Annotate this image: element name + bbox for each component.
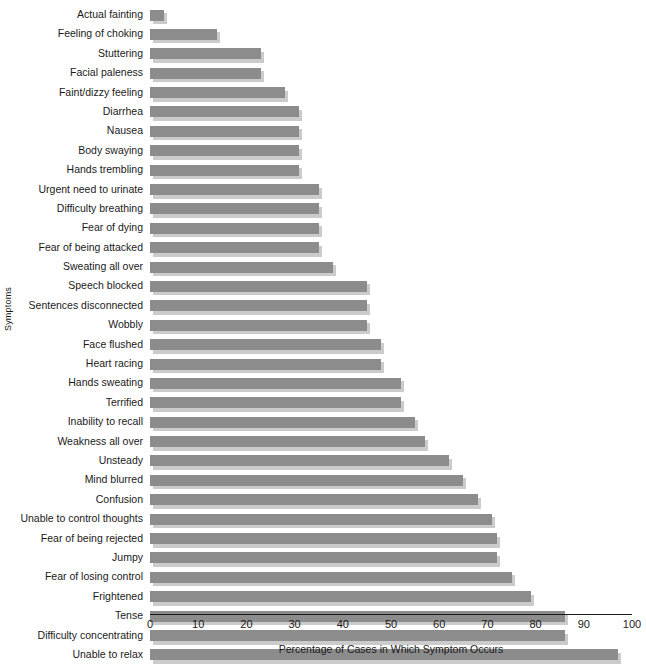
bar-row: Faint/dizzy feeling [16,86,632,105]
bar-category-label: Faint/dizzy feeling [16,86,150,99]
bar-track [150,512,632,531]
bar-track [150,435,632,454]
bar-category-label: Inability to recall [16,415,150,428]
bar-track [150,357,632,376]
bar-track [150,105,632,124]
bar-track [150,454,632,473]
bar-fill [150,339,381,350]
bar-row: Hands trembling [16,163,632,182]
bar-track [150,590,632,609]
bar-track [150,163,632,182]
bar-fill [150,242,319,253]
bar-fill [150,572,512,583]
bar-row: Hands sweating [16,376,632,395]
bar-row: Fear of being rejected [16,532,632,551]
bar-fill [150,281,367,292]
bar-fill [150,455,449,466]
bar-category-label: Weakness all over [16,435,150,448]
bar-track [150,415,632,434]
bar-category-label: Facial paleness [16,66,150,79]
bar-track [150,260,632,279]
bar-fill [150,533,497,544]
bar-row: Actual fainting [16,8,632,27]
bar-category-label: Body swaying [16,144,150,157]
bar-row: Jumpy [16,551,632,570]
bar-row: Fear of losing control [16,570,632,589]
bar-fill [150,514,492,525]
bar-track [150,241,632,260]
x-tick-label: 30 [288,618,300,630]
bar-fill [150,436,425,447]
x-tick-label: 60 [433,618,445,630]
x-tick-label: 90 [578,618,590,630]
bar-track [150,144,632,163]
bar-category-label: Sentences disconnected [16,299,150,312]
bar-fill [150,359,381,370]
bar-track [150,124,632,143]
y-axis-title: Symptoms [0,0,16,618]
bar-track [150,47,632,66]
bar-category-label: Feeling of choking [16,27,150,40]
bar-category-label: Jumpy [16,551,150,564]
bar-row: Weakness all over [16,435,632,454]
x-tick-label: 80 [529,618,541,630]
bar-fill [150,494,478,505]
bar-track [150,27,632,46]
bar-row: Face flushed [16,338,632,357]
bar-track [150,66,632,85]
bar-fill [150,126,299,137]
bar-fill [150,397,401,408]
bar-row: Heart racing [16,357,632,376]
bar-category-label: Actual fainting [16,8,150,21]
bar-category-label: Unable to control thoughts [16,512,150,525]
x-tick-label: 100 [623,618,641,630]
bar-row: Diarrhea [16,105,632,124]
bar-track [150,532,632,551]
bar-row: Wobbly [16,318,632,337]
bar-fill [150,475,463,486]
x-tick-label: 10 [192,618,204,630]
bar-row: Frightened [16,590,632,609]
bar-track [150,202,632,221]
bar-category-label: Hands sweating [16,376,150,389]
bar-chart: Symptoms Actual faintingFeeling of choki… [0,0,646,665]
bar-category-label: Nausea [16,124,150,137]
bar-category-label: Difficulty breathing [16,202,150,215]
bar-category-label: Mind blurred [16,473,150,486]
bar-row: Unable to control thoughts [16,512,632,531]
bar-category-label: Confusion [16,493,150,506]
bar-fill [150,417,415,428]
x-tick-label: 0 [147,618,153,630]
bar-fill [150,262,333,273]
bar-row: Nausea [16,124,632,143]
bar-category-label: Fear of being attacked [16,241,150,254]
x-tick-label: 40 [337,618,349,630]
bar-fill [150,48,261,59]
x-tick-label: 50 [385,618,397,630]
bar-row: Body swaying [16,144,632,163]
bar-category-label: Hands trembling [16,163,150,176]
bar-row: Unsteady [16,454,632,473]
bar-row: Sweating all over [16,260,632,279]
bar-category-label: Wobbly [16,318,150,331]
bar-category-label: Diarrhea [16,105,150,118]
bar-category-label: Face flushed [16,338,150,351]
bar-track [150,493,632,512]
bar-category-label: Terrified [16,396,150,409]
x-axis-ticks: 0102030405060708090100 [150,618,632,634]
bar-fill [150,29,217,40]
bar-row: Terrified [16,396,632,415]
bar-category-label: Sweating all over [16,260,150,273]
bar-track [150,338,632,357]
bar-category-label: Difficulty concentrating [16,629,150,642]
bar-category-label: Urgent need to urinate [16,183,150,196]
bar-track [150,183,632,202]
bar-row: Facial paleness [16,66,632,85]
y-axis-title-text: Symptoms [3,287,13,331]
bar-track [150,299,632,318]
bar-fill [150,591,531,602]
x-tick-label: 20 [240,618,252,630]
bar-fill [150,106,299,117]
bar-fill [150,87,285,98]
bar-category-label: Tense [16,609,150,622]
